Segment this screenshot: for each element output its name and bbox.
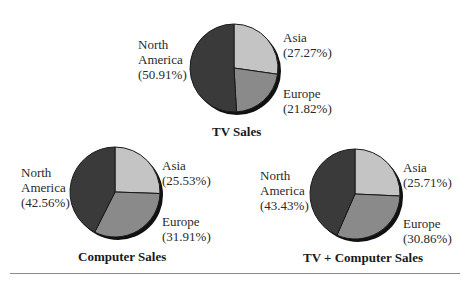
pie-slice-north-america bbox=[190, 24, 236, 112]
combined-europe-label: Europe (30.86%) bbox=[403, 216, 452, 246]
combined-asia-label: Asia (25.71%) bbox=[403, 160, 452, 190]
combined-sales-title: TV + Computer Sales bbox=[303, 250, 423, 266]
tv-asia-label: Asia (27.27%) bbox=[283, 30, 332, 60]
tv-europe-label: Europe (21.82%) bbox=[283, 86, 332, 116]
computer-north-america-label: North America (42.56%) bbox=[21, 165, 70, 210]
tv-sales-title: TV Sales bbox=[212, 124, 261, 140]
pie-computer-sales bbox=[70, 147, 163, 240]
pie-slice-asia bbox=[355, 149, 400, 196]
computer-europe-label: Europe (31.91%) bbox=[162, 214, 211, 244]
pie-slice-asia bbox=[234, 24, 278, 74]
bottom-divider bbox=[10, 273, 460, 274]
tv-north-america-label: North America (50.91%) bbox=[138, 37, 187, 82]
pie-slice-asia bbox=[115, 147, 160, 194]
pie-slice-europe bbox=[234, 68, 278, 112]
pie-charts-canvas bbox=[0, 0, 469, 284]
pie-combined-sales bbox=[310, 149, 403, 242]
computer-asia-label: Asia (25.53%) bbox=[162, 158, 211, 188]
computer-sales-title: Computer Sales bbox=[78, 249, 166, 265]
combined-north-america-label: North America (43.43%) bbox=[260, 168, 309, 213]
pie-tv-sales bbox=[190, 24, 281, 115]
